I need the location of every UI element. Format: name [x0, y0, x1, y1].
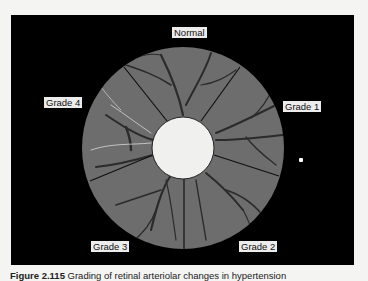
segment-label-grade-4: Grade 4: [44, 97, 82, 108]
segment-label-grade-3: Grade 3: [91, 241, 129, 252]
segment-label-normal: Normal: [172, 27, 207, 38]
segment-label-grade-1: Grade 1: [283, 101, 321, 112]
caption-number: Figure 2.115: [10, 270, 65, 281]
caption-text: Grading of retinal arteriolar changes in…: [68, 270, 287, 281]
figure-caption: Figure 2.115 Grading of retinal arteriol…: [10, 270, 286, 281]
white-marker-dot: [299, 158, 303, 162]
segment-label-grade-2: Grade 2: [239, 241, 277, 252]
center-disc: [152, 117, 214, 179]
figure-panel: Normal Grade 1 Grade 2 Grade 3 Grade 4: [11, 15, 354, 265]
fundus-grading-wheel: [11, 15, 354, 265]
